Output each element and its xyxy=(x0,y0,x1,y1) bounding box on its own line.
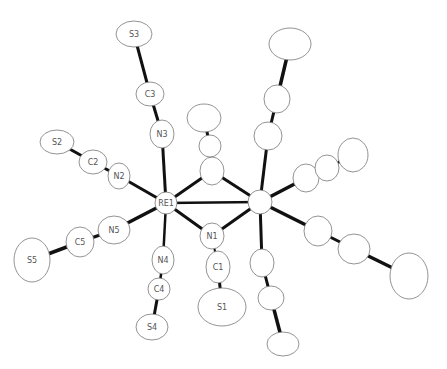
atom-r_r_c xyxy=(315,155,339,181)
atom-label: C3 xyxy=(145,90,156,99)
atom-ellipsoid xyxy=(267,332,299,356)
atom-label: S2 xyxy=(52,138,62,147)
atom-layer: RE1N1C1S1N2C2S2N3C3S3N4C4S4N5C5S5 xyxy=(14,21,428,356)
atom-label: S3 xyxy=(129,30,139,39)
atom-label: N2 xyxy=(113,172,124,181)
atom-r_up_c xyxy=(264,85,290,113)
atom-ellipsoid xyxy=(187,104,221,132)
atom-s3: S3 xyxy=(116,21,152,47)
atom-c3: C3 xyxy=(136,82,164,106)
ortep-molecular-diagram: RE1N1C1S1N2C2S2N3C3S3N4C4S4N5C5S5 xyxy=(0,0,447,369)
atom-r_dr_n xyxy=(304,216,332,246)
atom-n4: N4 xyxy=(152,246,174,274)
atom-n2: N2 xyxy=(108,163,130,189)
atom-ellipsoid xyxy=(269,28,311,60)
atom-label: N5 xyxy=(108,226,119,235)
atom-r_r_s xyxy=(338,138,368,172)
atom-r_up_n xyxy=(254,122,282,150)
atom-re1: RE1 xyxy=(155,192,177,214)
atom-b1 xyxy=(200,157,224,185)
atom-s5: S5 xyxy=(14,238,50,282)
atom-re2 xyxy=(248,190,272,214)
atom-r_dr_c xyxy=(338,234,370,264)
atom-ellipsoid xyxy=(390,253,428,299)
atom-label: RE1 xyxy=(158,199,174,208)
atom-n3: N3 xyxy=(150,120,174,148)
atom-c1: C1 xyxy=(206,251,230,283)
atom-r_dn_n xyxy=(250,249,274,277)
atom-label: C4 xyxy=(154,285,165,294)
atom-r_up_s xyxy=(269,28,311,60)
atom-n5: N5 xyxy=(98,216,130,244)
atom-label: S5 xyxy=(27,256,37,265)
atom-r_dn_c xyxy=(258,286,284,310)
atom-n1: N1 xyxy=(200,223,224,249)
atom-c4: C4 xyxy=(148,278,170,300)
atom-s1: S1 xyxy=(198,288,246,326)
atom-label: N3 xyxy=(156,130,167,139)
atom-ellipsoid xyxy=(315,155,339,181)
atom-label: N4 xyxy=(157,256,168,265)
atom-c5: C5 xyxy=(66,227,94,257)
atom-ellipsoid xyxy=(258,286,284,310)
atom-label: N1 xyxy=(206,232,217,241)
atom-b2 xyxy=(199,135,221,157)
molecule-canvas: RE1N1C1S1N2C2S2N3C3S3N4C4S4N5C5S5 xyxy=(0,0,447,369)
atom-r_dn_s xyxy=(267,332,299,356)
atom-ellipsoid xyxy=(264,85,290,113)
atom-s2: S2 xyxy=(40,130,74,154)
atom-ellipsoid xyxy=(304,216,332,246)
atom-ellipsoid xyxy=(248,190,272,214)
atom-ellipsoid xyxy=(199,135,221,157)
atom-b3 xyxy=(187,104,221,132)
atom-label: S1 xyxy=(217,303,227,312)
atom-ellipsoid xyxy=(200,157,224,185)
bond-re1-re2 xyxy=(166,202,260,203)
atom-s4: S4 xyxy=(136,314,168,340)
atom-ellipsoid xyxy=(338,234,370,264)
atom-ellipsoid xyxy=(254,122,282,150)
atom-c2: C2 xyxy=(79,150,107,174)
atom-label: S4 xyxy=(147,323,157,332)
atom-label: C5 xyxy=(75,238,86,247)
atom-r_dr_s xyxy=(390,253,428,299)
atom-ellipsoid xyxy=(338,138,368,172)
atom-label: C1 xyxy=(213,263,224,272)
atom-label: C2 xyxy=(88,158,99,167)
atom-ellipsoid xyxy=(250,249,274,277)
